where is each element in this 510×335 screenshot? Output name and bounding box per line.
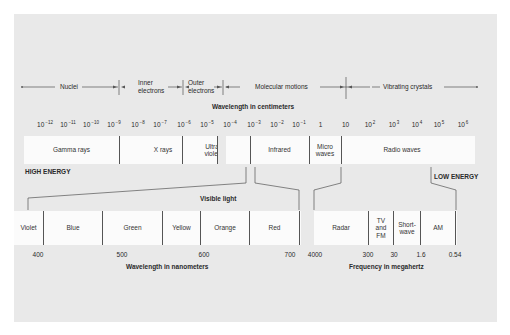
origin-label-outer-electrons: Outer electrons — [188, 79, 216, 95]
origin-label-inner-electrons: Inner electrons — [138, 79, 168, 95]
tick-label: 10 — [342, 120, 350, 128]
band-am: AM — [421, 211, 455, 245]
visible-band: Violet Blue Green Yellow Orange Red — [14, 211, 301, 245]
band-yellow: Yellow — [163, 211, 200, 245]
band-shortwave: Short-wave — [394, 211, 420, 245]
tick-label: 104 — [412, 120, 423, 128]
freq-value: 300 — [363, 251, 374, 258]
nm-value: 700 — [285, 251, 296, 258]
nm-axis-label: Wavelength in nanometers — [126, 263, 208, 271]
tick-label: 105 — [434, 120, 445, 128]
tick-label: 10−8 — [131, 120, 144, 128]
region-gamma-rays: Gamma rays — [24, 136, 119, 164]
tick-label: 10−10 — [83, 120, 99, 128]
freq-value: 1.6 — [416, 251, 425, 258]
divider — [299, 211, 300, 245]
band-tv-fm: TV and FM — [369, 211, 393, 245]
tick-label: 106 — [458, 120, 469, 128]
divider — [455, 211, 456, 245]
origin-label-nuclei: Nuclei — [60, 83, 78, 91]
region-ultraviolet: Ultra violet — [183, 136, 241, 164]
radio-band: Radar TV and FM Short-wave AM — [314, 211, 457, 245]
tick-label: 10−6 — [177, 120, 190, 128]
band-gap — [217, 136, 226, 164]
tick-label: 10−4 — [223, 120, 236, 128]
divider — [217, 136, 218, 164]
band-red: Red — [250, 211, 299, 245]
region-label: Micro waves — [313, 143, 337, 158]
spectrum-band: Gamma rays X rays Ultra violet Infrared … — [24, 136, 475, 164]
tick-label: 10−11 — [60, 120, 76, 128]
tick-label: 10−3 — [247, 120, 260, 128]
tick-label: 1 — [319, 120, 324, 128]
nm-value: 400 — [33, 251, 44, 258]
tick-label: 10−9 — [107, 120, 120, 128]
band-label: Short-wave — [396, 221, 418, 236]
tick-label: 10−1 — [292, 120, 305, 128]
tick-label: 10−2 — [270, 120, 283, 128]
tick-label: 102 — [365, 120, 376, 128]
band-violet: Violet — [14, 211, 43, 245]
freq-value: 0.54 — [449, 251, 462, 258]
divider — [182, 136, 183, 164]
tick-label: 10−12 — [37, 120, 53, 128]
region-radio-waves: Radio waves — [342, 136, 462, 164]
freq-axis-label: Frequency in megahertz — [349, 263, 424, 271]
region-microwaves: Micro waves — [310, 136, 340, 164]
origin-label-molecular-motions: Molecular motions — [255, 83, 308, 91]
high-energy-label: HIGH ENERGY — [25, 168, 71, 176]
visible-light-label: Visible light — [200, 195, 236, 203]
band-green: Green — [103, 211, 162, 245]
nm-value: 600 — [199, 251, 210, 258]
origin-label-vibrating-crystals: Vibrating crystals — [383, 83, 432, 91]
band-orange: Orange — [201, 211, 249, 245]
connector-lines — [0, 0, 510, 335]
tick-label: 103 — [389, 120, 400, 128]
band-label: TV and FM — [374, 217, 388, 240]
wavelength-cm-axis-label: Wavelength in centimeters — [212, 103, 294, 111]
low-energy-label: LOW ENERGY — [434, 173, 478, 181]
freq-value: 4000 — [308, 251, 322, 258]
tick-label: 10−5 — [200, 120, 213, 128]
band-blue: Blue — [44, 211, 102, 245]
tick-label: 10−7 — [153, 120, 166, 128]
region-infrared: Infrared — [251, 136, 308, 164]
freq-value: 30 — [390, 251, 397, 258]
nm-value: 500 — [117, 251, 128, 258]
band-radar: Radar — [314, 211, 368, 245]
